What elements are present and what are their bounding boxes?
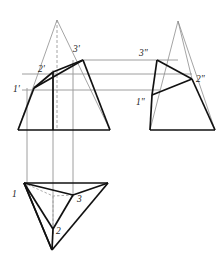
top-label-point-1: 1 [12, 189, 17, 199]
side-label-point-3: 3" [138, 48, 149, 58]
top-label-point-3: 3 [76, 194, 82, 204]
side-label-point-2: 2" [196, 74, 206, 84]
front-label-point-2: 2' [38, 64, 46, 74]
front-label-point-1: 1' [13, 84, 21, 94]
front-label-point-3: 3' [72, 44, 81, 54]
top-label-point-2: 2 [56, 226, 61, 236]
technical-drawing-canvas: 1' 2' 3' 3" 2" 1" [0, 0, 223, 258]
drawing-background [0, 0, 223, 258]
top-edge-2-to-apex [52, 229, 53, 250]
side-label-point-1: 1" [136, 97, 146, 107]
